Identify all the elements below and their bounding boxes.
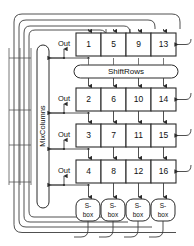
cell-r4c1-label: 4 [86, 166, 91, 176]
sbox-4-label-top: S- [160, 202, 167, 209]
cell-r2c2-label: 6 [111, 94, 116, 104]
state-row-3: 3 7 11 15 [76, 124, 191, 147]
cell-r2c4-label: 14 [159, 94, 169, 104]
cell-r3c1-label: 3 [86, 130, 91, 140]
sbox-output-group [74, 221, 163, 237]
row1-right-input-riser [186, 39, 191, 45]
shiftrows-label: ShiftRows [108, 67, 144, 76]
state-row-2: 2 6 10 14 [76, 88, 191, 111]
cell-r3c3-label: 11 [134, 130, 143, 140]
sbox-4-label-bottom: box [158, 211, 169, 218]
sbox-2-output [99, 221, 113, 237]
sbox-1-label-top: S- [85, 202, 92, 209]
out-label-2: Out [58, 94, 71, 103]
sbox-2-label-bottom: box [108, 211, 119, 218]
sbox-1-label-bottom: box [83, 211, 94, 218]
row3-right-input-riser [186, 129, 191, 136]
aes-datapath-diagram: MixColumns 1 5 9 13 Out [0, 0, 194, 246]
mixcolumns-label: MixColumns [38, 105, 47, 147]
junction-dot-3b [63, 148, 65, 150]
cell-r1c1-label: 1 [86, 39, 91, 49]
sbox-row: S- box S- box S- box S- box [76, 199, 175, 221]
shiftrows-block[interactable]: ShiftRows [74, 58, 178, 86]
cell-r3c4-label: 15 [159, 130, 169, 140]
cell-r2c1-label: 2 [86, 94, 91, 104]
cell-r1c4-label: 13 [159, 39, 169, 49]
row4-right-input-riser [186, 165, 191, 172]
left-rail-group [9, 48, 31, 185]
state-row-4: 4 8 12 16 [76, 160, 191, 183]
row2-right-input-riser [186, 93, 191, 100]
sbox-2-label-top: S- [110, 202, 117, 209]
out-label-3: Out [58, 130, 71, 139]
row2-to-row3-connectors [89, 111, 164, 122]
junction-dot-4b [63, 184, 65, 186]
sbox-3-label-top: S- [135, 202, 142, 209]
cell-r2c3-label: 10 [134, 94, 144, 104]
junction-dot-1b [63, 57, 65, 59]
out-label-1: Out [58, 39, 71, 48]
row3-to-row4-connectors [89, 147, 164, 158]
cell-r3c2-label: 7 [111, 130, 116, 140]
cell-r1c2-label: 5 [111, 39, 116, 49]
sbox-3-output [124, 221, 138, 237]
state-row-1: 1 5 9 13 [76, 29, 191, 56]
sbox-4-output [149, 221, 163, 237]
diagram-canvas: MixColumns 1 5 9 13 Out [0, 0, 194, 246]
sbox-3-label-bottom: box [133, 211, 144, 218]
out-label-4: Out [58, 166, 71, 175]
sbox-1-output [74, 221, 88, 237]
cell-r4c4-label: 16 [159, 166, 169, 176]
mixcolumns-block[interactable]: MixColumns [37, 45, 49, 208]
row4-to-sbox-connectors [89, 183, 164, 197]
cell-r1c3-label: 9 [136, 39, 141, 49]
junction-dot-2b [63, 112, 65, 114]
cell-r4c2-label: 8 [111, 166, 116, 176]
cell-r4c3-label: 12 [134, 166, 144, 176]
